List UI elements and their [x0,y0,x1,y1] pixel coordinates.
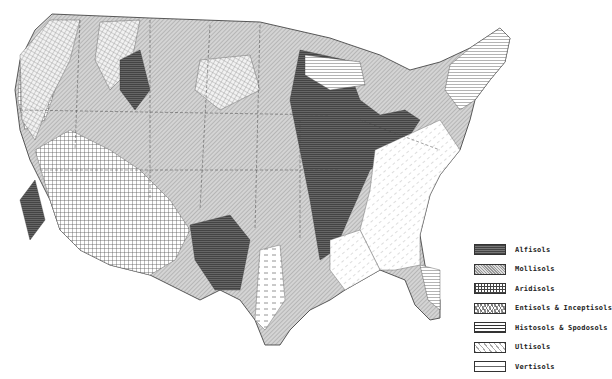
legend-item-aridisols: Aridisols [474,279,576,299]
ultisols-swatch-icon [474,342,506,353]
legend-item-entisols: Entisols & Inceptisols [474,299,576,319]
histosols-swatch-icon [474,322,506,333]
legend-label: Aridisols [515,285,555,293]
legend-item-vertisols: Vertisols [474,357,576,377]
legend: Alfisols Mollisols Aridisols Entisols & … [474,240,576,377]
legend-item-alfisols: Alfisols [474,240,576,260]
entisols-swatch-icon [474,303,506,314]
legend-item-ultisols: Ultisols [474,338,576,358]
mollisols-swatch-icon [474,264,506,275]
legend-label: Vertisols [515,363,555,371]
legend-label: Alfisols [515,246,550,254]
legend-label: Histosols & Spodosols [515,324,608,332]
region-histosols [445,28,510,110]
alfisols-swatch-icon [474,244,506,255]
vertisols-swatch-icon [474,361,506,372]
legend-item-mollisols: Mollisols [474,260,576,280]
legend-item-histosols: Histosols & Spodosols [474,318,576,338]
aridisols-swatch-icon [474,283,506,294]
legend-label: Ultisols [515,343,550,351]
legend-label: Mollisols [515,265,555,273]
legend-label: Entisols & Inceptisols [515,304,612,312]
